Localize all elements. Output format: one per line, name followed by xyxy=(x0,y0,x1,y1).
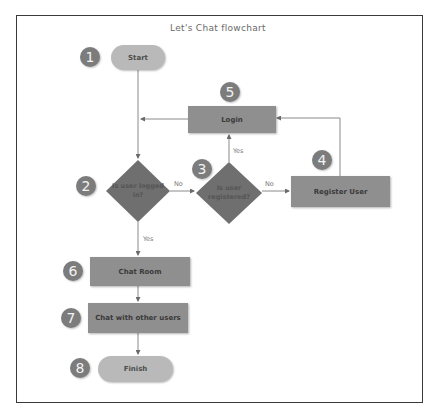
login-node[interactable]: Login xyxy=(188,106,276,133)
chat-room-node[interactable]: Chat Room xyxy=(90,257,190,286)
step-badge-4: 4 xyxy=(312,150,332,170)
edge-label-registered-no: No xyxy=(265,180,274,188)
edge-label-registered-yes: Yes xyxy=(233,147,244,155)
step-badge-1: 1 xyxy=(80,47,100,67)
register-user-node[interactable]: Register User xyxy=(291,176,390,207)
start-node[interactable]: Start xyxy=(111,45,165,70)
decision-logged-in-line1: Is user logged xyxy=(110,182,166,191)
step-badge-3: 3 xyxy=(192,159,212,179)
decision-registered-line1: Is user xyxy=(201,184,257,193)
decision-registered-line2: registered? xyxy=(201,193,257,202)
chat-users-node[interactable]: Chat with other users xyxy=(88,303,188,333)
edge-label-logged-in-yes: Yes xyxy=(143,235,154,243)
decision-registered[interactable]: Is user registered? xyxy=(201,184,257,202)
decision-logged-in[interactable]: Is user logged in? xyxy=(110,182,166,200)
edge-register-to-login xyxy=(277,118,340,176)
step-badge-5: 5 xyxy=(220,82,240,102)
connectors xyxy=(0,0,436,417)
step-badge-8: 8 xyxy=(70,358,90,378)
edge-label-logged-in-no: No xyxy=(174,180,183,188)
step-badge-6: 6 xyxy=(63,261,83,281)
step-badge-7: 7 xyxy=(61,308,81,328)
step-badge-2: 2 xyxy=(76,176,96,196)
decision-logged-in-line2: in? xyxy=(110,191,166,200)
finish-node[interactable]: Finish xyxy=(98,356,173,382)
